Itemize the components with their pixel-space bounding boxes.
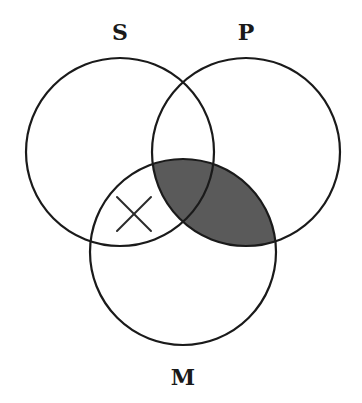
venn-diagram: S P M [0, 0, 362, 403]
circle-s [26, 58, 214, 246]
label-p: P [238, 19, 255, 45]
x-mark-icon [117, 197, 151, 231]
label-s: S [112, 19, 128, 45]
label-m: M [171, 364, 195, 390]
